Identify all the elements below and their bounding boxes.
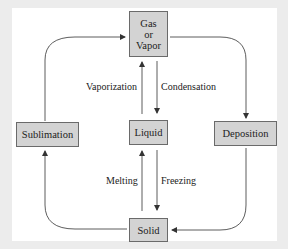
sublimation-label: Sublimation <box>22 129 73 140</box>
gas-line3: Vapor <box>136 40 161 51</box>
node-sublimation: Sublimation <box>16 122 79 147</box>
label-vaporization: Vaporization <box>86 81 137 92</box>
node-deposition: Deposition <box>214 121 277 146</box>
liquid-label: Liquid <box>135 127 163 138</box>
node-gas-or-vapor: Gas or Vapor <box>129 11 168 57</box>
node-solid: Solid <box>129 218 168 242</box>
arrow-sublimation-to-gas <box>45 37 125 121</box>
label-condensation: Condensation <box>161 81 216 92</box>
label-melting: Melting <box>106 175 138 186</box>
node-liquid: Liquid <box>129 120 168 145</box>
gas-line1: Gas <box>140 18 156 29</box>
deposition-label: Deposition <box>222 128 268 139</box>
solid-label: Solid <box>137 225 159 236</box>
arrow-deposition-to-solid <box>172 148 246 230</box>
label-freezing: Freezing <box>161 175 196 186</box>
gas-line2: or <box>144 29 153 40</box>
arrow-gas-to-deposition <box>170 37 246 118</box>
arrow-solid-to-sublimation <box>45 151 127 229</box>
